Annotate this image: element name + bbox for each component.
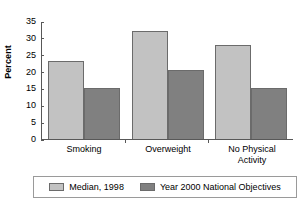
- legend-label: Year 2000 National Objectives: [160, 182, 281, 193]
- legend-item: Year 2000 National Objectives: [140, 182, 281, 193]
- bar-groups: [42, 22, 293, 139]
- bar-chart: Percent 05101520253035 SmokingOverweight…: [0, 0, 306, 214]
- bar[interactable]: [132, 31, 168, 139]
- y-tick-label: 0: [31, 134, 36, 145]
- legend-swatch-icon: [140, 183, 155, 191]
- x-tick-label: No Physical Activity: [210, 144, 294, 166]
- tick-mark: [41, 140, 44, 141]
- legend-item: Median, 1998: [49, 182, 124, 193]
- y-tick-label: 30: [26, 33, 36, 44]
- y-tick-label: 15: [26, 83, 36, 94]
- plot-area: 05101520253035: [41, 22, 293, 140]
- x-axis-labels: SmokingOverweightNo Physical Activity: [42, 144, 294, 166]
- y-tick-label: 5: [31, 117, 36, 128]
- x-axis-tick: [125, 139, 126, 143]
- bar-group: [209, 22, 293, 139]
- bar[interactable]: [84, 88, 120, 139]
- y-tick-label: 35: [26, 16, 36, 27]
- x-tick-label: Overweight: [126, 144, 210, 166]
- x-tick-label: Smoking: [42, 144, 126, 166]
- y-tick-label: 10: [26, 100, 36, 111]
- x-axis-line: [41, 139, 293, 140]
- y-tick-label: 25: [26, 50, 36, 61]
- legend-swatch-icon: [49, 183, 64, 191]
- chart-legend: Median, 1998 Year 2000 National Objectiv…: [33, 176, 297, 198]
- bar-group: [126, 22, 210, 139]
- bar-group: [42, 22, 126, 139]
- bar[interactable]: [168, 70, 204, 139]
- legend-label: Median, 1998: [69, 182, 124, 193]
- x-axis-tick: [208, 139, 209, 143]
- y-tick-label: 20: [26, 67, 36, 78]
- bar[interactable]: [48, 61, 84, 139]
- bar[interactable]: [215, 45, 251, 139]
- bar[interactable]: [251, 88, 287, 139]
- y-axis-title: Percent: [3, 32, 13, 92]
